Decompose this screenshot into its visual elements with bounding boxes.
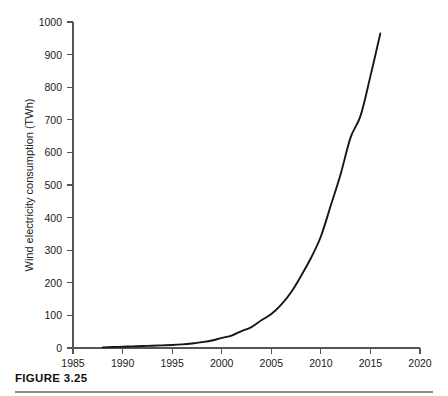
x-tick-label-2005: 2005 bbox=[260, 357, 284, 369]
chart-background bbox=[0, 0, 448, 372]
x-tick-label-1995: 1995 bbox=[160, 357, 184, 369]
figure-caption-label: FIGURE 3.25 bbox=[15, 372, 87, 384]
y-tick-label-700: 700 bbox=[44, 114, 62, 126]
y-axis-title: Wind electricity consumption (TWh) bbox=[23, 99, 35, 272]
y-tick-label-100: 100 bbox=[44, 309, 62, 321]
y-tick-label-300: 300 bbox=[44, 244, 62, 256]
caption-divider-rule bbox=[15, 391, 433, 393]
x-tick-label-1990: 1990 bbox=[111, 357, 135, 369]
y-tick-label-500: 500 bbox=[44, 179, 62, 191]
y-tick-label-200: 200 bbox=[44, 277, 62, 289]
figure-container: 1000 900 800 700 600 500 400 300 200 100… bbox=[0, 0, 448, 396]
y-tick-label-0: 0 bbox=[56, 342, 62, 354]
y-tick-label-600: 600 bbox=[44, 146, 62, 158]
figure-caption-block: FIGURE 3.25 bbox=[0, 372, 448, 396]
wind-consumption-line-chart: 1000 900 800 700 600 500 400 300 200 100… bbox=[0, 0, 448, 372]
x-tick-label-2015: 2015 bbox=[359, 357, 383, 369]
x-tick-label-2020: 2020 bbox=[408, 357, 432, 369]
x-tick-label-2010: 2010 bbox=[309, 357, 333, 369]
y-tick-label-800: 800 bbox=[44, 81, 62, 93]
y-tick-label-900: 900 bbox=[44, 49, 62, 61]
y-tick-label-1000: 1000 bbox=[39, 16, 63, 28]
y-tick-label-400: 400 bbox=[44, 212, 62, 224]
x-tick-label-1985: 1985 bbox=[61, 357, 85, 369]
x-tick-label-2000: 2000 bbox=[210, 357, 234, 369]
